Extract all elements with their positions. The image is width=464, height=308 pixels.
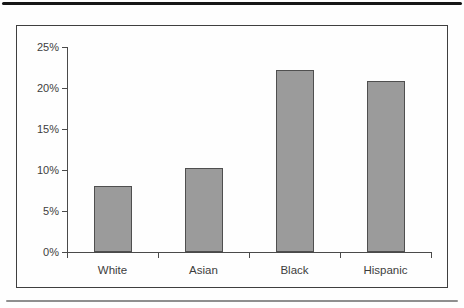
x-axis-tick — [249, 253, 250, 258]
x-axis-category-label: Hispanic — [340, 264, 431, 277]
bar-white — [94, 186, 132, 252]
bottom-rule — [6, 300, 458, 302]
y-axis-tick-label: 0% — [17, 247, 59, 258]
x-axis-category-label: Black — [249, 264, 340, 277]
y-axis-tick-label: 25% — [17, 42, 59, 53]
x-axis-tick — [67, 253, 68, 258]
x-axis-tick — [431, 253, 432, 258]
y-axis-tick-label: 10% — [17, 165, 59, 176]
x-axis-category-label: White — [67, 264, 158, 277]
y-axis-tick — [62, 129, 67, 130]
page: 0%5%10%15%20%25%WhiteAsianBlackHispanic — [0, 0, 464, 308]
y-axis-tick-label: 15% — [17, 124, 59, 135]
y-axis-tick — [62, 47, 67, 48]
y-axis-tick-label: 5% — [17, 206, 59, 217]
y-axis-line — [67, 47, 68, 253]
y-axis-tick — [62, 88, 67, 89]
bar-black — [276, 70, 314, 252]
y-axis-tick — [62, 211, 67, 212]
y-axis-tick — [62, 170, 67, 171]
x-axis-tick — [158, 253, 159, 258]
plot-area: 0%5%10%15%20%25%WhiteAsianBlackHispanic — [17, 26, 447, 287]
x-axis-category-label: Asian — [158, 264, 249, 277]
top-rule — [2, 2, 462, 5]
x-axis-tick — [340, 253, 341, 258]
chart-frame: 0%5%10%15%20%25%WhiteAsianBlackHispanic — [16, 25, 448, 288]
bar-hispanic — [367, 81, 405, 252]
y-axis-tick-label: 20% — [17, 83, 59, 94]
bar-asian — [185, 168, 223, 252]
